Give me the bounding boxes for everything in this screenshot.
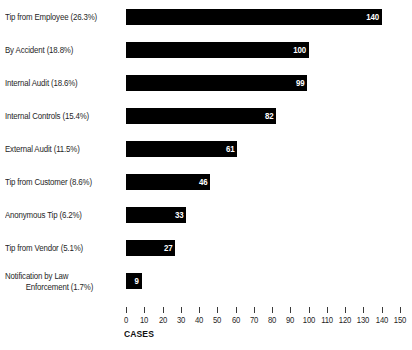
bar-value-label: 33 [175, 207, 186, 223]
category-label-line1: Notification by Law [5, 271, 113, 282]
x-axis-tick [272, 307, 273, 313]
x-axis-tick-label: 40 [195, 316, 203, 326]
x-axis-tick-label: 120 [339, 316, 351, 326]
x-axis-tick [345, 307, 346, 313]
x-axis-tick [400, 307, 401, 313]
category-label: Anonymous Tip (6.2%) [5, 210, 113, 221]
bar: 27 [126, 240, 175, 256]
bar: 33 [126, 207, 186, 223]
bar-chart: Tip from Employee (26.3%)140By Accident … [0, 0, 412, 350]
category-label-line2: Enforcement (1.7%) [5, 282, 113, 293]
x-axis-tick-label: 130 [357, 316, 369, 326]
x-axis-tick-label: 10 [140, 316, 148, 326]
x-axis-tick-label: 0 [124, 316, 128, 326]
category-label: Internal Controls (15.4%) [5, 111, 113, 122]
table-row: External Audit (11.5%)61 [0, 141, 412, 174]
x-axis-tick [163, 307, 164, 313]
category-label: Tip from Employee (26.3%) [5, 12, 113, 23]
x-axis-tick-label: 50 [213, 316, 221, 326]
category-label: Internal Audit (18.6%) [5, 78, 113, 89]
bar-value-label: 100 [294, 42, 309, 58]
category-label: Tip from Customer (8.6%) [5, 177, 113, 188]
category-label: External Audit (11.5%) [5, 144, 113, 155]
bar: 82 [126, 108, 276, 124]
x-axis-tick-label: 100 [303, 316, 315, 326]
x-axis-tick [309, 307, 310, 313]
category-label: By Accident (18.8%) [5, 45, 113, 56]
x-axis-tick [144, 307, 145, 313]
x-axis-tick-label: 150 [394, 316, 406, 326]
category-label: Notification by LawEnforcement (1.7%) [5, 271, 113, 292]
table-row: Internal Audit (18.6%)99 [0, 75, 412, 108]
clipped-title-artifact [6, 0, 118, 3]
x-axis-tick [199, 307, 200, 313]
table-row: By Accident (18.8%)100 [0, 42, 412, 75]
x-axis: 0102030405060708090100110120130140150 CA… [0, 307, 412, 350]
table-row: Tip from Vendor (5.1%)27 [0, 240, 412, 273]
x-axis-tick-label: 20 [159, 316, 167, 326]
bar: 61 [126, 141, 237, 157]
bar: 9 [126, 273, 142, 289]
x-axis-tick [254, 307, 255, 313]
bar: 46 [126, 174, 210, 190]
bar-value-label: 140 [367, 9, 382, 25]
x-axis-tick-label: 70 [250, 316, 258, 326]
bar-value-label: 46 [199, 174, 210, 190]
table-row: Notification by LawEnforcement (1.7%)9 [0, 273, 412, 306]
x-axis-tick-label: 30 [177, 316, 185, 326]
x-axis-tick [327, 307, 328, 313]
table-row: Internal Controls (15.4%)82 [0, 108, 412, 141]
x-axis-tick-label: 140 [376, 316, 388, 326]
x-axis-tick-label: 60 [232, 316, 240, 326]
bar-value-label: 61 [226, 141, 237, 157]
x-axis-tick [217, 307, 218, 313]
bar: 99 [126, 75, 307, 91]
x-axis-tick-label: 80 [268, 316, 276, 326]
bar-value-label: 82 [265, 108, 276, 124]
x-axis-tick [236, 307, 237, 313]
table-row: Anonymous Tip (6.2%)33 [0, 207, 412, 240]
x-axis-tick-label: 110 [321, 316, 333, 326]
category-label: Tip from Vendor (5.1%) [5, 243, 113, 254]
table-row: Tip from Employee (26.3%)140 [0, 9, 412, 42]
x-axis-tick-label: 90 [286, 316, 294, 326]
x-axis-tick [126, 307, 127, 313]
x-axis-tick [290, 307, 291, 313]
x-axis-tick [382, 307, 383, 313]
bar-value-label: 99 [296, 75, 307, 91]
bar-value-label: 27 [164, 240, 175, 256]
x-axis-tick [181, 307, 182, 313]
table-row: Tip from Customer (8.6%)46 [0, 174, 412, 207]
bar-value-label: 9 [135, 273, 142, 289]
bar: 140 [126, 9, 382, 25]
x-axis-title: CASES [124, 329, 154, 339]
x-axis-tick [363, 307, 364, 313]
bar: 100 [126, 42, 309, 58]
